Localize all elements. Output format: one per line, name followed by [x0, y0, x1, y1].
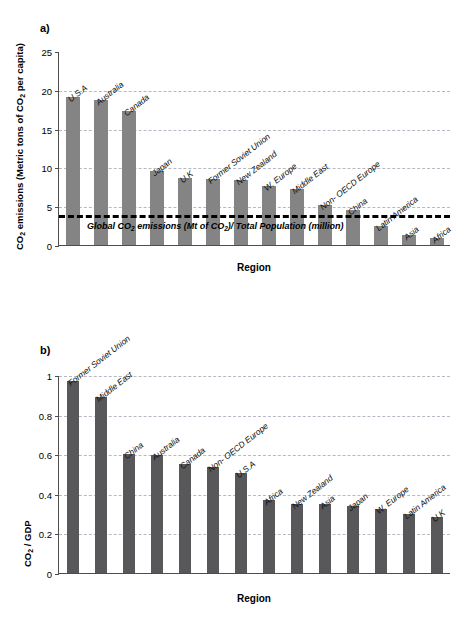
- bar: [234, 180, 249, 245]
- y-axis-tick: [55, 130, 59, 131]
- bar: [263, 500, 275, 573]
- panel-a-plot-area: 0510152025U.S.AAustraliaCanadaJapanU.KFo…: [58, 52, 450, 246]
- y-axis-tick-label: 15: [41, 124, 52, 135]
- panel-b-x-axis-title: Region: [58, 593, 450, 604]
- bar-category-label: Canada: [122, 92, 151, 118]
- y-axis-tick-label: 5: [47, 202, 52, 213]
- bar: [67, 381, 79, 573]
- bar: [150, 171, 165, 245]
- y-axis-tick: [55, 168, 59, 169]
- panel-a-label: a): [40, 22, 50, 34]
- bar-category-label: Asia: [402, 224, 421, 242]
- y-axis-tick: [55, 91, 59, 92]
- y-axis-tick: [55, 495, 59, 496]
- y-axis-tick: [55, 416, 59, 417]
- y-axis-tick-label: 0.2: [39, 529, 52, 540]
- y-axis-tick-label: 0.8: [39, 410, 52, 421]
- panel-b-label: b): [40, 344, 50, 356]
- y-axis-tick-label: 0.4: [39, 489, 52, 500]
- panel-a-x-axis-title: Region: [58, 262, 450, 273]
- bar: [403, 514, 415, 573]
- bar: [291, 504, 303, 573]
- y-axis-tick: [55, 207, 59, 208]
- bar: [207, 467, 219, 573]
- y-axis-tick: [55, 574, 59, 575]
- bar: [95, 397, 107, 573]
- y-axis-tick: [55, 52, 59, 53]
- bar: [151, 455, 163, 573]
- y-axis-tick: [55, 455, 59, 456]
- bar: [431, 517, 443, 573]
- y-axis-tick-label: 0: [47, 241, 52, 252]
- bar-category-label: Australia: [150, 435, 182, 463]
- bar: [66, 97, 81, 245]
- y-axis-tick-label: 20: [41, 85, 52, 96]
- gridline: [59, 455, 450, 456]
- bar-category-label: Canada: [178, 445, 207, 471]
- bar: [375, 509, 387, 573]
- gridline: [59, 534, 450, 535]
- bar: [235, 473, 247, 573]
- panel-a: a) CO2 emissions (Metric tons of CO2 per…: [0, 0, 470, 312]
- y-axis-tick: [55, 376, 59, 377]
- y-axis-tick-label: 25: [41, 47, 52, 58]
- panel-b-plot-area: 00.20.40.60.81Former Soviet UnionMiddle …: [58, 376, 450, 574]
- y-axis-tick-label: 0.6: [39, 450, 52, 461]
- panel-a-y-axis-title: CO2 emissions (Metric tons of CO2 per ca…: [14, 43, 25, 250]
- gridline: [59, 207, 450, 208]
- global-average-threshold-label: Global CO2 emissions (Mt of CO2)/ Total …: [87, 221, 343, 231]
- bar-category-label: Australia: [94, 79, 126, 107]
- bar: [319, 504, 331, 573]
- gridline: [59, 130, 450, 131]
- bar-category-label: Middle East: [94, 369, 134, 404]
- bar: [178, 178, 193, 245]
- bar: [206, 179, 221, 245]
- figure-container: a) CO2 emissions (Metric tons of CO2 per…: [0, 0, 470, 629]
- y-axis-tick: [55, 246, 59, 247]
- y-axis-tick-label: 0: [47, 569, 52, 580]
- bar: [123, 454, 135, 573]
- bar-category-label: Non- OECD Europe: [206, 421, 270, 474]
- bar: [347, 506, 359, 573]
- panel-b: b) CO2 / GDP 00.20.40.60.81Former Soviet…: [0, 312, 470, 629]
- gridline: [59, 416, 450, 417]
- panel-b-y-axis-title: CO2 / GDP: [22, 520, 33, 567]
- bar: [179, 464, 191, 573]
- y-axis-tick: [55, 534, 59, 535]
- bar-category-label: U.K: [430, 507, 447, 523]
- global-average-threshold-line: [59, 215, 450, 218]
- y-axis-tick-label: 10: [41, 163, 52, 174]
- y-axis-tick-label: 1: [47, 371, 52, 382]
